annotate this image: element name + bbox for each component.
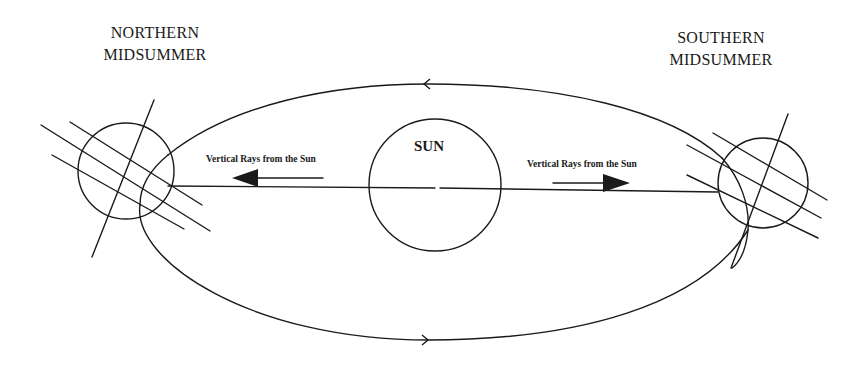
southern-label-line2: MIDSUMMER	[656, 49, 786, 71]
sun-earth-line-right	[440, 188, 718, 192]
northern-label-line1: NORTHERN	[90, 22, 220, 44]
sun-earth-line-left	[168, 186, 435, 188]
earth-southern-ray-3	[687, 175, 818, 238]
rays-right-arrowhead	[603, 174, 630, 192]
rays-left-label: Vertical Rays from the Sun	[206, 154, 316, 164]
northern-midsummer-label: NORTHERN MIDSUMMER	[90, 22, 220, 66]
rays-right-label: Vertical Rays from the Sun	[527, 159, 637, 169]
earth-northern-ray-1	[70, 122, 202, 205]
southern-midsummer-label: SOUTHERN MIDSUMMER	[656, 27, 786, 71]
orbit-right-connector	[722, 158, 748, 268]
earth-southern-axis	[731, 114, 788, 268]
earth-northern-ray-2	[41, 125, 210, 231]
orbit-bottom-arc	[140, 205, 748, 340]
orbit-left-connector	[140, 155, 168, 205]
northern-label-line2: MIDSUMMER	[90, 44, 220, 66]
sun-label: SUN	[414, 138, 444, 155]
orbit-top-arc	[168, 84, 722, 158]
orbit-diagram: NORTHERN MIDSUMMER SOUTHERN MIDSUMMER SU…	[0, 0, 866, 365]
rays-left-arrowhead	[232, 169, 258, 187]
southern-label-line1: SOUTHERN	[656, 27, 786, 49]
